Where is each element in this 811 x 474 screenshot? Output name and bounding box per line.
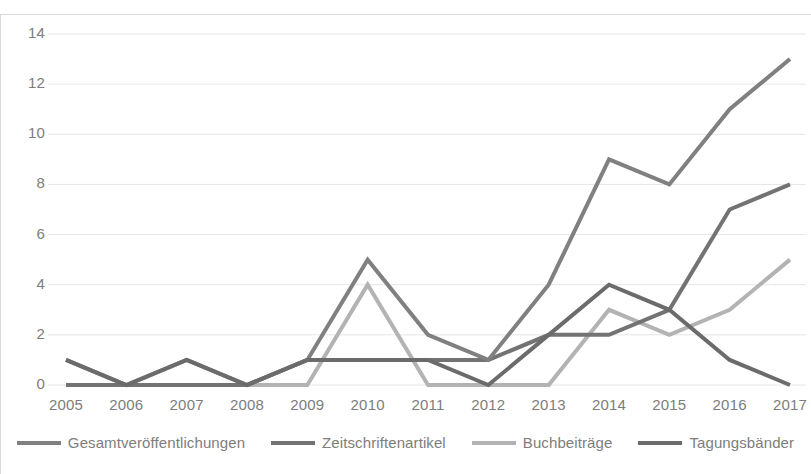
y-tick-label-8: 8 [5,174,45,191]
y-tick-label-10: 10 [5,124,45,141]
x-tick-label-2014: 2014 [579,396,639,413]
legend-label-2: Buchbeiträge [523,434,613,451]
legend-swatch-icon-2 [472,441,516,445]
x-tick-label-2015: 2015 [639,396,699,413]
x-tick-label-2005: 2005 [36,396,96,413]
x-tick-label-2013: 2013 [519,396,579,413]
x-tick-label-2017: 2017 [760,396,811,413]
legend-swatch-icon-1 [271,441,315,445]
x-tick-label-2016: 2016 [700,396,760,413]
y-tick-label-4: 4 [5,275,45,292]
legend-item-3[interactable]: Tagungsbänder [638,434,794,451]
x-tick-label-2008: 2008 [217,396,277,413]
legend-label-3: Tagungsbänder [689,434,794,451]
legend-item-2[interactable]: Buchbeiträge [472,434,613,451]
y-tick-label-12: 12 [5,74,45,91]
legend-item-1[interactable]: Zeitschriftenartikel [271,434,446,451]
y-tick-label-6: 6 [5,225,45,242]
x-tick-label-2010: 2010 [338,396,398,413]
legend-swatch-icon-3 [638,441,682,445]
y-tick-label-14: 14 [5,24,45,41]
legend-label-1: Zeitschriftenartikel [322,434,446,451]
x-tick-label-2006: 2006 [96,396,156,413]
y-tick-label-2: 2 [5,325,45,342]
series-line-0 [66,59,790,385]
chart-legend: GesamtveröffentlichungenZeitschriftenart… [0,434,811,451]
x-tick-label-2012: 2012 [458,396,518,413]
x-tick-label-2007: 2007 [157,396,217,413]
legend-swatch-icon-0 [17,441,61,445]
legend-item-0[interactable]: Gesamtveröffentlichungen [17,434,245,451]
y-tick-label-0: 0 [5,375,45,392]
x-tick-label-2009: 2009 [277,396,337,413]
chart-container: 14121086420 2005200620072008200920102011… [0,0,811,474]
legend-label-0: Gesamtveröffentlichungen [68,434,245,451]
x-tick-label-2011: 2011 [398,396,458,413]
